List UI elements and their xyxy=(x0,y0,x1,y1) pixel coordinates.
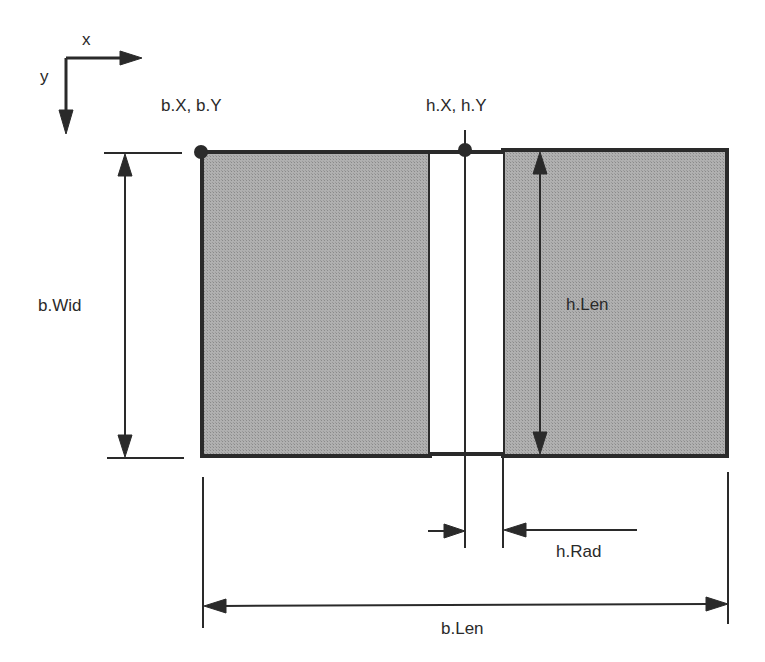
y-axis-label: y xyxy=(40,68,49,85)
hole-radius-dimension xyxy=(428,523,637,538)
base-width-label: b.Wid xyxy=(38,297,81,314)
base-origin-point-icon xyxy=(194,145,208,159)
axes-indicator-icon xyxy=(59,51,142,134)
base-plate-right xyxy=(503,150,727,456)
x-axis-label: x xyxy=(82,31,91,48)
hole-length-label: h.Len xyxy=(566,296,609,313)
base-origin-label: b.X, b.Y xyxy=(161,97,221,114)
hole-origin-point-icon xyxy=(458,143,472,157)
base-plate-left xyxy=(202,152,430,456)
base-length-label: b.Len xyxy=(441,620,484,637)
hole-slot xyxy=(428,152,505,454)
hole-radius-label: h.Rad xyxy=(556,543,601,560)
hole-origin-label: h.X, h.Y xyxy=(426,97,486,114)
dimension-diagram xyxy=(0,0,765,662)
base-width-dimension xyxy=(104,153,184,458)
